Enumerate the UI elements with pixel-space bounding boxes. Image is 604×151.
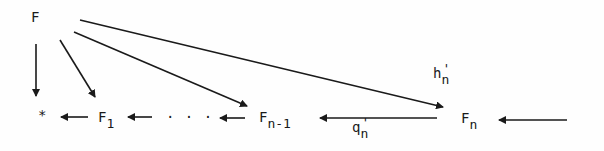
node-dots-label: · · · [166, 109, 213, 125]
label-qn-sub: n [360, 126, 368, 141]
label-hn-sub: n [441, 72, 449, 87]
node-Fn: Fn [461, 111, 477, 125]
node-dots: · · · [166, 110, 213, 124]
node-F1-sub: 1 [106, 116, 114, 131]
node-F1: F1 [98, 110, 114, 124]
arrow-F-to-Fn [80, 20, 443, 107]
label-qn-prime: q'n [352, 120, 368, 134]
arrow-F-to-Fn-1 [74, 32, 247, 106]
diagram-canvas: F * F1 · · · Fn-1 Fn h'n q'n [0, 0, 604, 151]
node-star-label: * [38, 107, 46, 123]
node-F: F [31, 10, 39, 24]
node-Fn-1-sub: n-1 [267, 116, 290, 131]
arrows-layer [0, 0, 604, 151]
label-hn-prime: h'n [433, 66, 449, 80]
node-star: * [38, 108, 46, 122]
node-Fn-sub: n [469, 117, 477, 132]
node-F-label: F [31, 9, 39, 25]
node-Fn-1: Fn-1 [259, 110, 291, 124]
arrow-F-to-F1 [60, 40, 95, 97]
